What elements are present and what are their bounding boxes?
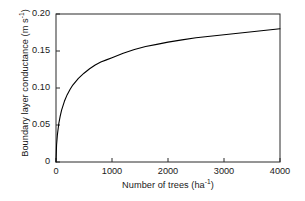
axes-box <box>56 14 280 162</box>
axis-ticks <box>56 14 280 162</box>
axes-frame <box>56 14 280 162</box>
data-series-line <box>56 29 280 162</box>
chart-figure: Boundary layer conductance (m s-1) Numbe… <box>0 0 305 201</box>
plot-area <box>0 0 305 201</box>
